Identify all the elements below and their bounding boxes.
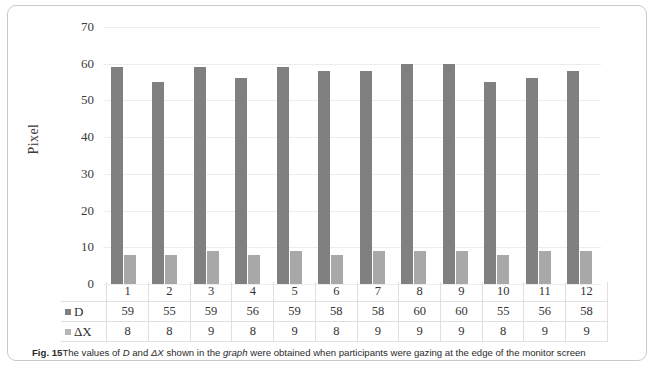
value-cell-D-9: 60	[441, 302, 483, 322]
bar-ΔX-11	[539, 251, 551, 284]
bar-D-11	[526, 78, 538, 284]
y-tick-label-20: 20	[56, 203, 94, 219]
category-cell-1: 1	[107, 282, 149, 302]
series-label-dx: ΔX	[61, 322, 107, 342]
caption-symbol-d: D	[123, 347, 130, 358]
bar-D-12	[567, 71, 579, 284]
y-tick-label-60: 60	[56, 56, 94, 72]
value-cell-D-6: 58	[315, 302, 357, 322]
bar-group-4	[228, 27, 270, 284]
bar-group-3	[186, 27, 228, 284]
bar-group-5	[269, 27, 311, 284]
bar-group-9	[435, 27, 477, 284]
bar-ΔX-5	[290, 251, 302, 284]
bar-ΔX-1	[124, 255, 136, 284]
bar-ΔX-4	[248, 255, 260, 284]
y-tick-label-70: 70	[56, 19, 94, 35]
bar-D-8	[401, 64, 413, 284]
bar-ΔX-2	[165, 255, 177, 284]
value-cell-ΔX-4: 8	[232, 322, 274, 342]
bar-ΔX-10	[497, 255, 509, 284]
bar-D-9	[443, 64, 455, 284]
bar-group-8	[394, 27, 436, 284]
category-cell-3: 3	[190, 282, 232, 302]
value-cell-D-12: 58	[566, 302, 608, 322]
bar-ΔX-9	[456, 251, 468, 284]
value-cell-ΔX-2: 8	[149, 322, 191, 342]
caption-word-graph: graph	[223, 347, 248, 358]
y-tick-label-10: 10	[56, 239, 94, 255]
category-cell-9: 9	[441, 282, 483, 302]
chart-region: Pixel 706050403020100	[8, 6, 648, 294]
bar-ΔX-12	[580, 251, 592, 284]
value-cell-ΔX-11: 9	[524, 322, 566, 342]
category-cell-4: 4	[232, 282, 274, 302]
value-cell-ΔX-6: 8	[315, 322, 357, 342]
category-cell-10: 10	[482, 282, 524, 302]
bar-group-11	[518, 27, 560, 284]
value-cell-D-5: 59	[274, 302, 316, 322]
y-tick-label-30: 30	[56, 166, 94, 182]
value-cell-ΔX-9: 9	[441, 322, 483, 342]
category-cell-2: 2	[149, 282, 191, 302]
value-cell-ΔX-8: 9	[399, 322, 441, 342]
bar-D-2	[152, 82, 164, 284]
category-row-label	[61, 282, 107, 302]
bar-group-1	[103, 27, 145, 284]
bar-D-7	[360, 71, 372, 284]
bar-ΔX-3	[207, 251, 219, 284]
category-cell-6: 6	[315, 282, 357, 302]
bar-ΔX-6	[331, 255, 343, 284]
category-cell-12: 12	[566, 282, 608, 302]
series-name-dx: ΔX	[74, 324, 92, 339]
value-cell-D-8: 60	[399, 302, 441, 322]
series-label-d: D	[61, 302, 107, 322]
y-axis-title: Pixel	[26, 89, 42, 189]
value-cell-D-1: 59	[107, 302, 149, 322]
category-cell-7: 7	[357, 282, 399, 302]
value-cell-ΔX-7: 9	[357, 322, 399, 342]
bar-D-10	[484, 82, 496, 284]
bar-D-3	[194, 67, 206, 284]
category-cell-5: 5	[274, 282, 316, 302]
value-cell-ΔX-1: 8	[107, 322, 149, 342]
bar-group-2	[145, 27, 187, 284]
value-cell-D-7: 58	[357, 302, 399, 322]
y-tick-label-50: 50	[56, 92, 94, 108]
value-cell-D-3: 59	[190, 302, 232, 322]
bar-group-10	[477, 27, 519, 284]
bar-D-5	[277, 67, 289, 284]
bar-group-12	[560, 27, 602, 284]
bar-ΔX-8	[414, 251, 426, 284]
data-table: 123456789101112 D 5955595659585860605556…	[61, 282, 608, 342]
value-cell-D-2: 55	[149, 302, 191, 322]
value-cell-ΔX-3: 9	[190, 322, 232, 342]
series-name-d: D	[74, 304, 83, 319]
value-cell-D-10: 55	[482, 302, 524, 322]
caption-text-and: and	[130, 347, 151, 358]
y-tick-label-40: 40	[56, 129, 94, 145]
table-row-d: D 595559565958586060555658	[61, 302, 608, 322]
caption-text-1: The values of	[62, 347, 122, 358]
caption-text-3: were obtained when participants were gaz…	[248, 347, 586, 358]
value-cell-ΔX-12: 9	[566, 322, 608, 342]
figure-number: Fig. 15	[32, 347, 62, 358]
value-cell-D-4: 56	[232, 302, 274, 322]
figure-frame: Pixel 706050403020100 123456789101112 D …	[7, 5, 647, 361]
caption-text-2: shown in the	[164, 347, 223, 358]
legend-swatch-dx-icon	[65, 329, 71, 335]
figure-caption: Fig. 15The values of D and ΔX shown in t…	[32, 347, 648, 359]
table-row-categories: 123456789101112	[61, 282, 608, 302]
legend-swatch-d-icon	[65, 309, 71, 315]
bar-ΔX-7	[373, 251, 385, 284]
value-cell-D-11: 56	[524, 302, 566, 322]
bar-D-6	[318, 71, 330, 284]
plot-area	[103, 27, 601, 284]
table-row-dx: ΔX 889898999899	[61, 322, 608, 342]
bar-D-4	[235, 78, 247, 284]
caption-symbol-dx: ΔX	[151, 347, 164, 358]
category-cell-11: 11	[524, 282, 566, 302]
bar-group-6	[311, 27, 353, 284]
value-cell-ΔX-5: 9	[274, 322, 316, 342]
category-cell-8: 8	[399, 282, 441, 302]
